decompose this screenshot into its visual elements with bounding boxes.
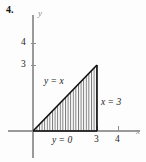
annotation-vertical-boundary: x = 3 bbox=[101, 97, 121, 107]
figure-container: 4. y x 4 3 3 4 y = x x = 3 bbox=[0, 0, 146, 162]
annotation-diagonal-boundary: y = x bbox=[44, 76, 64, 86]
annotation-horizontal-boundary: y = 0 bbox=[52, 135, 72, 145]
shaded-region-svg bbox=[0, 0, 146, 162]
